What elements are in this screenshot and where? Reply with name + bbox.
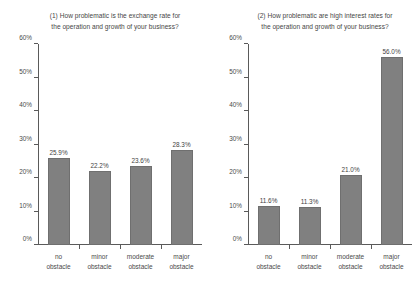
y-axis-tick-label: 50% bbox=[229, 67, 242, 74]
bar bbox=[299, 207, 321, 245]
x-axis-category-label-line: obstacle bbox=[46, 262, 70, 272]
plot-area: 0%10%20%30%40%50%60%11.6%noobstacle11.3%… bbox=[248, 44, 412, 245]
x-axis-tick bbox=[371, 245, 372, 249]
bar bbox=[130, 166, 152, 245]
figure: (1) How problematic is the exchange rate… bbox=[0, 0, 420, 293]
bar-value-label: 25.9% bbox=[49, 149, 67, 156]
bar-group: 22.2%minorobstacle bbox=[79, 44, 120, 245]
bar-group: 21.0%moderateobstacle bbox=[330, 44, 371, 245]
x-axis-tick bbox=[79, 245, 80, 249]
x-axis-category-label: noobstacle bbox=[46, 252, 70, 271]
bar bbox=[258, 206, 280, 245]
x-axis-category-label-line: obstacle bbox=[297, 262, 321, 272]
bar-group: 23.6%moderateobstacle bbox=[120, 44, 161, 245]
x-axis-category-label-line: obstacle bbox=[87, 262, 111, 272]
y-axis-tick-label: 30% bbox=[229, 134, 242, 141]
x-axis-category-label-line: major bbox=[169, 252, 193, 262]
bar-series: 11.6%noobstacle11.3%minorobstacle21.0%mo… bbox=[248, 44, 412, 245]
bar-value-label: 56.0% bbox=[382, 48, 400, 55]
x-axis-category-label-line: minor bbox=[87, 252, 111, 262]
chart-title-line2: the operation and growth of your busines… bbox=[234, 22, 416, 33]
bar-value-label: 23.6% bbox=[131, 157, 149, 164]
x-axis-category-label-line: obstacle bbox=[256, 262, 280, 272]
bar-group: 28.3%majorobstacle bbox=[161, 44, 202, 245]
y-axis-tick-label: 0% bbox=[233, 235, 242, 242]
x-axis-category-label-line: minor bbox=[297, 252, 321, 262]
bar-series: 25.9%noobstacle22.2%minorobstacle23.6%mo… bbox=[38, 44, 202, 245]
plot-area: 0%10%20%30%40%50%60%25.9%noobstacle22.2%… bbox=[38, 44, 202, 245]
y-axis-tick-label: 30% bbox=[19, 134, 32, 141]
y-axis-tick-label: 20% bbox=[229, 168, 242, 175]
y-axis-tick-label: 10% bbox=[19, 201, 32, 208]
x-axis-category-label-line: obstacle bbox=[127, 262, 154, 272]
bar-value-label: 11.6% bbox=[260, 197, 278, 204]
chart-panel-2: (2) How problematic are high interest ra… bbox=[210, 0, 420, 293]
bar-group: 11.6%noobstacle bbox=[248, 44, 289, 245]
x-axis-category-label-line: moderate bbox=[127, 252, 154, 262]
x-axis-category-label: majorobstacle bbox=[169, 252, 193, 271]
bar-value-label: 11.3% bbox=[301, 198, 319, 205]
chart-title: (2) How problematic are high interest ra… bbox=[234, 11, 416, 32]
chart-panel-1: (1) How problematic is the exchange rate… bbox=[0, 0, 210, 293]
chart-title-line1: (2) How problematic are high interest ra… bbox=[234, 11, 416, 22]
x-axis-category-label: majorobstacle bbox=[379, 252, 403, 271]
y-axis-tick-label: 10% bbox=[229, 201, 242, 208]
y-axis-tick-label: 0% bbox=[23, 235, 32, 242]
x-axis-category-label-line: obstacle bbox=[379, 262, 403, 272]
x-axis-tick bbox=[289, 245, 290, 249]
y-axis-tick-label: 50% bbox=[19, 67, 32, 74]
bar bbox=[48, 158, 70, 245]
y-axis-tick-label: 40% bbox=[229, 101, 242, 108]
y-axis-tick-label: 60% bbox=[19, 34, 32, 41]
x-axis-category-label-line: moderate bbox=[337, 252, 364, 262]
x-axis-category-label: minorobstacle bbox=[87, 252, 111, 271]
bar-group: 11.3%minorobstacle bbox=[289, 44, 330, 245]
x-axis-category-label-line: obstacle bbox=[169, 262, 193, 272]
x-axis-category-label-line: obstacle bbox=[337, 262, 364, 272]
y-axis-tick-label: 20% bbox=[19, 168, 32, 175]
bar-group: 25.9%noobstacle bbox=[38, 44, 79, 245]
x-axis-category-label: minorobstacle bbox=[297, 252, 321, 271]
y-axis-tick-label: 40% bbox=[19, 101, 32, 108]
bar-value-label: 21.0% bbox=[341, 166, 359, 173]
bar bbox=[89, 171, 111, 245]
bar bbox=[381, 57, 403, 245]
x-axis-category-label-line: no bbox=[46, 252, 70, 262]
x-axis-tick bbox=[161, 245, 162, 249]
bar-value-label: 28.3% bbox=[172, 141, 190, 148]
x-axis-category-label-line: major bbox=[379, 252, 403, 262]
bar-value-label: 22.2% bbox=[90, 162, 108, 169]
x-axis-category-label: moderateobstacle bbox=[337, 252, 364, 271]
chart-title-line1: (1) How problematic is the exchange rate… bbox=[24, 11, 206, 22]
x-axis-tick bbox=[120, 245, 121, 249]
bar bbox=[171, 150, 193, 245]
bar-group: 56.0%majorobstacle bbox=[371, 44, 412, 245]
bar bbox=[340, 175, 362, 245]
x-axis-category-label-line: no bbox=[256, 252, 280, 262]
x-axis-category-label: noobstacle bbox=[256, 252, 280, 271]
x-axis-tick bbox=[330, 245, 331, 249]
x-axis-category-label: moderateobstacle bbox=[127, 252, 154, 271]
chart-title: (1) How problematic is the exchange rate… bbox=[24, 11, 206, 32]
chart-title-line2: the operation and growth of your busines… bbox=[24, 22, 206, 33]
y-axis-tick-label: 60% bbox=[229, 34, 242, 41]
